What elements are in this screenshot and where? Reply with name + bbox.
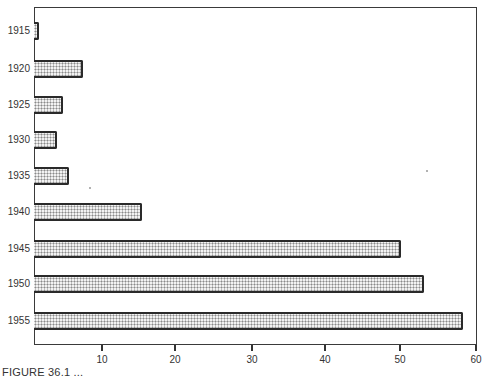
scan-speck: [426, 170, 428, 172]
x-label-10: 10: [87, 354, 117, 366]
plot-frame: [34, 7, 477, 345]
x-label-30: 30: [237, 354, 267, 366]
x-label-60: 60: [461, 354, 484, 366]
x-label-50: 50: [385, 354, 415, 366]
bar-1930: [34, 131, 57, 149]
x-tick-60: [475, 345, 477, 351]
y-label-1915: 1915: [2, 25, 30, 37]
y-label-1930: 1930: [2, 134, 30, 146]
y-label-1935: 1935: [2, 170, 30, 182]
bar-1940: [34, 203, 142, 221]
x-label-20: 20: [160, 354, 190, 366]
x-tick-20: [174, 345, 176, 351]
figure-caption: FIGURE 36.1 ...: [2, 366, 83, 378]
bar-1950: [34, 275, 424, 293]
y-label-1945: 1945: [2, 243, 30, 255]
bar-1925: [34, 96, 63, 114]
scan-speck: [89, 187, 91, 189]
x-tick-10: [101, 345, 103, 351]
bar-1935: [34, 167, 69, 185]
y-label-1920: 1920: [2, 63, 30, 75]
y-label-1955: 1955: [2, 315, 30, 327]
bar-1920: [34, 60, 83, 78]
y-label-1925: 1925: [2, 99, 30, 111]
x-tick-40: [324, 345, 326, 351]
bar-1955: [34, 312, 463, 330]
bar-1945: [34, 240, 401, 258]
y-label-1950: 1950: [2, 278, 30, 290]
y-label-1940: 1940: [2, 206, 30, 218]
bar-1915: [34, 22, 39, 40]
x-label-40: 40: [310, 354, 340, 366]
x-tick-30: [251, 345, 253, 351]
x-tick-50: [399, 345, 401, 351]
